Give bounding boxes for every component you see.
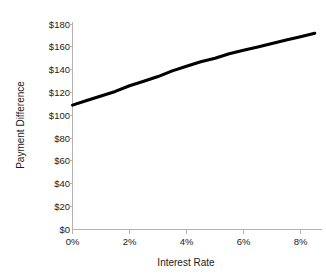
data-series-payment-difference bbox=[73, 33, 315, 105]
y-tick-label-120: $120 bbox=[49, 87, 70, 98]
y-tick-label-140: $140 bbox=[49, 64, 70, 75]
y-tick-label-40: $40 bbox=[54, 178, 70, 189]
chart-container: $180 $160 $140 $120 $100 $80 $60 $40 $20… bbox=[0, 0, 326, 279]
y-tick-label-60: $60 bbox=[54, 155, 70, 166]
x-tick-label-2: 2% bbox=[123, 236, 137, 247]
y-tick-label-180: $180 bbox=[49, 19, 70, 30]
y-axis-title: Payment Difference bbox=[15, 81, 26, 169]
y-tick-label-100: $100 bbox=[49, 110, 70, 121]
x-tick-label-8: 8% bbox=[294, 236, 308, 247]
x-axis-title: Interest Rate bbox=[157, 257, 215, 268]
y-tick-label-20: $20 bbox=[54, 201, 70, 212]
x-tick-label-4: 4% bbox=[180, 236, 194, 247]
x-tick-label-0: 0% bbox=[66, 236, 80, 247]
line-chart: $180 $160 $140 $120 $100 $80 $60 $40 $20… bbox=[0, 0, 326, 279]
x-tick-label-6: 6% bbox=[237, 236, 251, 247]
y-tick-label-160: $160 bbox=[49, 41, 70, 52]
y-tick-label-0: $0 bbox=[59, 224, 70, 235]
y-tick-label-80: $80 bbox=[54, 133, 70, 144]
